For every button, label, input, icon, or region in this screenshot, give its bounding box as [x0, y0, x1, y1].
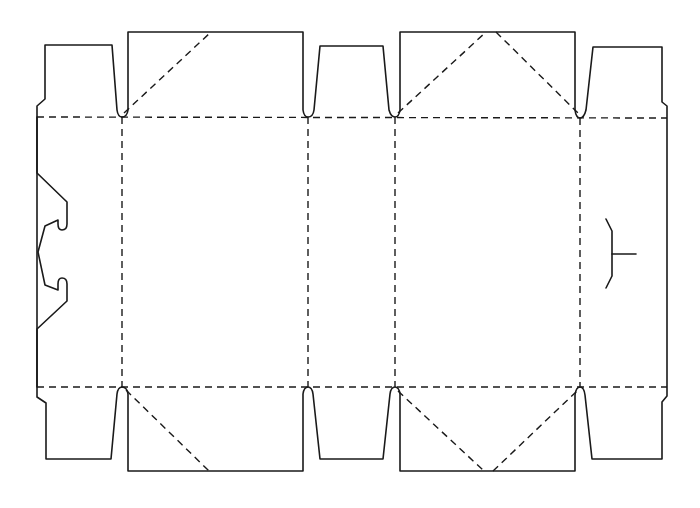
diagonal-fold-lines — [124, 32, 578, 471]
dieline-svg — [0, 0, 700, 508]
tuck-slot — [606, 219, 636, 288]
top-panel1-diag-line — [124, 32, 211, 113]
horizontal-fold-lines — [37, 117, 667, 387]
bottom-panel2-diag-left-line — [398, 391, 484, 471]
bottom-panel1-diag-line — [126, 390, 209, 471]
top-panel2-diag-right-line — [496, 32, 578, 113]
dieline-diagram — [0, 0, 700, 508]
top-fold-line — [37, 117, 667, 118]
vertical-fold-lines — [122, 117, 580, 387]
tuck-slot-curve — [606, 219, 612, 288]
top-panel2-diag-left-line — [398, 32, 486, 113]
glue-flap-cut-line — [37, 117, 67, 387]
bottom-panel2-diag-right-line — [493, 391, 577, 471]
outer-cut-line — [37, 32, 667, 471]
